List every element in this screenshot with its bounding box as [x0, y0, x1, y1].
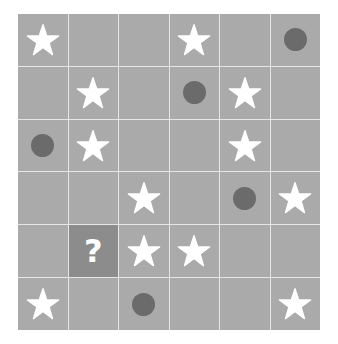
- star-icon: [76, 76, 110, 110]
- grid-cell: [271, 225, 321, 277]
- star-icon: [177, 23, 211, 57]
- grid-cell: [220, 225, 270, 277]
- circle-icon: [183, 81, 206, 104]
- grid-cell: [170, 225, 220, 277]
- star-icon: [26, 23, 60, 57]
- star-icon: [127, 181, 161, 215]
- star-icon: [177, 234, 211, 268]
- grid-cell: [18, 14, 68, 66]
- grid-cell: [170, 172, 220, 224]
- grid-cell: [220, 14, 270, 66]
- grid-cell: [18, 172, 68, 224]
- circle-icon: [31, 134, 54, 157]
- grid-cell: [119, 14, 169, 66]
- grid-cell: [170, 278, 220, 330]
- grid-cell: [18, 278, 68, 330]
- grid-cell: [220, 172, 270, 224]
- grid-cell: [220, 278, 270, 330]
- grid-cell: [119, 120, 169, 172]
- grid-cell: [18, 225, 68, 277]
- grid-cell: [170, 67, 220, 119]
- star-icon: [127, 234, 161, 268]
- grid-cell: [119, 225, 169, 277]
- star-icon: [26, 287, 60, 321]
- puzzle-grid: ?: [18, 14, 320, 330]
- unknown-cell[interactable]: ?: [69, 225, 119, 277]
- grid-cell: [18, 67, 68, 119]
- grid-cell: [18, 120, 68, 172]
- circle-icon: [132, 293, 155, 316]
- grid-cell: [69, 172, 119, 224]
- grid-cell: [69, 120, 119, 172]
- star-icon: [228, 129, 262, 163]
- star-icon: [76, 129, 110, 163]
- circle-icon: [284, 28, 307, 51]
- grid-cell: [271, 172, 321, 224]
- grid-cell: [69, 278, 119, 330]
- grid-cell: [170, 120, 220, 172]
- circle-icon: [233, 187, 256, 210]
- grid-cell: [119, 172, 169, 224]
- star-icon: [228, 76, 262, 110]
- grid-cell: [220, 120, 270, 172]
- grid-cell: [119, 278, 169, 330]
- star-icon: [278, 181, 312, 215]
- star-icon: [278, 287, 312, 321]
- grid-cell: [69, 67, 119, 119]
- grid-cell: [220, 67, 270, 119]
- grid-cell: [271, 67, 321, 119]
- grid-cell: [271, 14, 321, 66]
- question-mark-icon: ?: [84, 235, 103, 267]
- grid-cell: [271, 120, 321, 172]
- grid-cell: [119, 67, 169, 119]
- grid-cell: [271, 278, 321, 330]
- grid-cell: [170, 14, 220, 66]
- grid-cell: [69, 14, 119, 66]
